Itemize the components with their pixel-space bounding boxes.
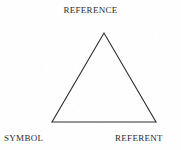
semiotic-triangle-figure: Reference Symbol Referent	[0, 0, 181, 150]
triangle-diagram	[0, 0, 181, 150]
label-referent: Referent	[115, 130, 163, 143]
triangle-outline	[52, 33, 156, 122]
label-reference: Reference	[0, 2, 181, 16]
label-symbol: Symbol	[4, 130, 43, 143]
